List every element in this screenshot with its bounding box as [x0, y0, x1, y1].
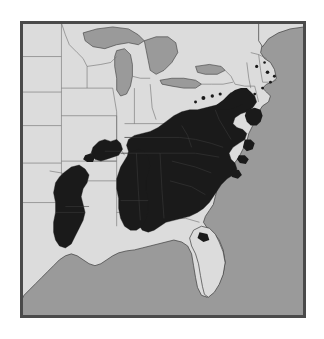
map-canvas — [22, 23, 304, 316]
outlier-dot-8 — [269, 81, 272, 84]
map-frame — [20, 21, 306, 318]
outlier-dot-4 — [194, 100, 197, 103]
outlier-dot-7 — [273, 75, 276, 78]
distribution-map-figure: Shaded distribution map of the eastern U… — [0, 0, 324, 339]
outlier-dot-1 — [201, 96, 205, 100]
outlier-dot-5 — [255, 65, 258, 68]
outlier-dot-6 — [266, 71, 270, 75]
outlier-dot-3 — [219, 92, 222, 95]
outlier-dot-2 — [211, 94, 214, 97]
outlier-dot-10 — [261, 87, 264, 90]
outlier-dot-9 — [263, 61, 266, 64]
outlier-dot-11 — [253, 93, 256, 96]
